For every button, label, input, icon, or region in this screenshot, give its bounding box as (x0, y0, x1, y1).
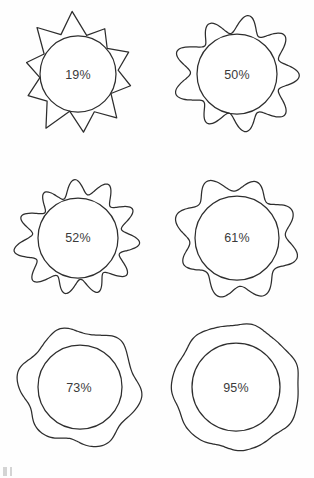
shape-cell-73: 73% (0, 315, 157, 478)
shape-cell-50: 50% (157, 0, 314, 160)
shape-grid: 19% 50% 52% 61% (0, 0, 314, 478)
shape-cell-61: 61% (157, 160, 314, 315)
page-corner-artifact (3, 467, 17, 476)
outer-outline-19 (27, 11, 131, 132)
outer-outline-52 (14, 180, 140, 294)
shape-cell-19: 19% (0, 0, 157, 160)
shape-svg-95 (157, 315, 314, 478)
shape-svg-73 (0, 315, 157, 478)
shape-svg-52 (0, 160, 157, 315)
shape-cell-52: 52% (0, 160, 157, 315)
shape-svg-61 (157, 160, 314, 315)
shape-svg-50 (157, 0, 314, 160)
figure-root: 19% 50% 52% 61% (0, 0, 314, 478)
shape-svg-19 (0, 0, 157, 160)
shape-cell-95: 95% (157, 315, 314, 478)
